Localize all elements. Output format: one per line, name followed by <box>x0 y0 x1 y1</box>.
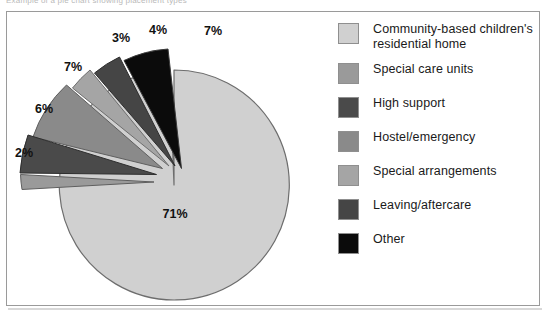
legend-label-special-arrangements: Special arrangements <box>373 164 497 179</box>
legend-label-special-care-units: Special care units <box>373 62 473 77</box>
legend-item-other[interactable]: Other <box>338 232 538 254</box>
legend-item-community-based[interactable]: Community-based children's residential h… <box>338 22 538 51</box>
pie-label-7-other: 7% <box>204 24 222 38</box>
pie-chart-svg: 71% 2% 6% 7% 3% 4% 7% <box>8 13 328 304</box>
pie-label-2: 2% <box>15 146 33 160</box>
legend-label-other: Other <box>373 232 405 247</box>
legend-swatch-special-arrangements <box>338 165 359 186</box>
pie-label-71: 71% <box>162 207 187 221</box>
legend: Community-based children's residential h… <box>338 22 538 266</box>
legend-item-hostel-emergency[interactable]: Hostel/emergency <box>338 130 538 152</box>
legend-label-high-support: High support <box>373 96 445 111</box>
pie-label-3: 3% <box>112 31 130 45</box>
frame-shadow <box>8 308 542 310</box>
legend-swatch-other <box>338 233 359 254</box>
pie-label-7-hostel: 7% <box>64 60 82 74</box>
pie-label-6: 6% <box>35 102 53 116</box>
pie-label-4: 4% <box>149 23 167 37</box>
legend-label-community-based: Community-based children's residential h… <box>373 22 538 51</box>
legend-swatch-leaving-aftercare <box>338 199 359 220</box>
legend-swatch-special-care-units <box>338 63 359 84</box>
legend-item-high-support[interactable]: High support <box>338 96 538 118</box>
legend-swatch-hostel-emergency <box>338 131 359 152</box>
legend-swatch-community-based <box>338 23 359 44</box>
legend-swatch-high-support <box>338 97 359 118</box>
legend-item-special-care-units[interactable]: Special care units <box>338 62 538 84</box>
figure-caption: Example of a pie chart showing placement… <box>6 0 187 6</box>
legend-label-hostel-emergency: Hostel/emergency <box>373 130 475 145</box>
pie-chart: 71% 2% 6% 7% 3% 4% 7% <box>8 13 328 304</box>
legend-item-leaving-aftercare[interactable]: Leaving/aftercare <box>338 198 538 220</box>
legend-label-leaving-aftercare: Leaving/aftercare <box>373 198 471 213</box>
legend-item-special-arrangements[interactable]: Special arrangements <box>338 164 538 186</box>
